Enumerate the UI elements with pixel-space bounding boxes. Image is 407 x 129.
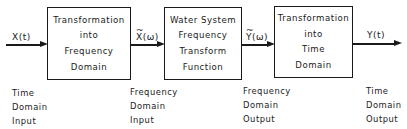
label-frequency-domain-input: Frequency Domain Input (130, 85, 178, 127)
block-water-system-transfer-function: Water System Frequency Transform Functio… (164, 7, 242, 80)
block-text: Frequency (65, 47, 114, 56)
block-text: into (80, 31, 98, 40)
block-text: into (304, 30, 322, 39)
block-to-time-domain: Transformation into Time Domain (274, 6, 353, 78)
block-text: Domain (71, 63, 107, 72)
block-text: Domain (295, 61, 331, 70)
block-to-frequency-domain: Transformation into Frequency Domain (47, 7, 131, 80)
signal-y-t: Y(t) (367, 30, 385, 40)
signal-y-tilde-omega: Y(ω) (246, 32, 268, 42)
block-text: Transform (179, 47, 226, 56)
label-frequency-domain-output: Frequency Domain Output (243, 84, 291, 126)
signal-x-t: X(t) (12, 32, 31, 42)
block-text: Transformation (53, 16, 124, 25)
label-time-domain-input: Time Domain Input (12, 86, 48, 128)
block-text: Function (183, 63, 224, 72)
block-text: Transformation (278, 14, 349, 23)
arrow-line-1-2 (131, 44, 158, 46)
signal-x-tilde-omega: X(ω) (136, 32, 159, 42)
output-arrow-head (394, 40, 402, 46)
block-text: Frequency (179, 31, 228, 40)
block-text: Water System (170, 16, 236, 25)
label-time-domain-output: Time Domain Output (366, 84, 402, 126)
arrow-line-2-3 (242, 44, 268, 46)
block-text: Time (302, 45, 325, 54)
output-arrow-line (353, 43, 395, 45)
input-arrow-line (6, 44, 42, 46)
